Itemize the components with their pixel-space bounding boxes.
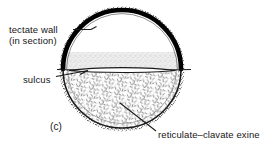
reticulate-clavate-exine bbox=[63, 69, 181, 128]
granular-band bbox=[63, 52, 181, 69]
label-tectate-wall-line2: (in section) bbox=[9, 35, 58, 46]
label-tectate-wall: tectate wall (in section) bbox=[9, 24, 58, 46]
pollen-grain-body bbox=[57, 9, 191, 129]
tectate-wall bbox=[63, 10, 181, 69]
figure-panel-label: (c) bbox=[50, 121, 62, 132]
label-tectate-wall-line1: tectate wall bbox=[9, 24, 58, 35]
label-reticulate-clavate-exine: reticulate–clavate exine bbox=[158, 129, 260, 140]
label-sulcus: sulcus bbox=[23, 74, 51, 85]
leader-tectate-wall-hook bbox=[91, 27, 97, 30]
